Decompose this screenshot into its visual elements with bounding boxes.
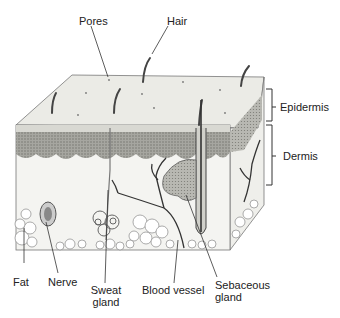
- label-blood-vessel: Blood vessel: [142, 284, 204, 296]
- layer-brackets: [266, 89, 276, 185]
- label-sebaceous-gland-line2: gland: [215, 291, 270, 303]
- label-fat: Fat: [13, 276, 29, 288]
- label-pores: Pores: [79, 15, 108, 27]
- label-epidermis: Epidermis: [280, 101, 329, 113]
- label-sebaceous-gland: Sebaceous gland: [215, 279, 270, 303]
- skin-diagram: Pores Hair Epidermis Dermis Fat Nerve Sw…: [0, 0, 340, 318]
- label-hair: Hair: [167, 15, 187, 27]
- label-sweat-gland-line1: Sweat: [89, 284, 123, 296]
- label-sweat-gland-line2: gland: [89, 296, 123, 308]
- label-nerve: Nerve: [48, 276, 77, 288]
- label-sweat-gland: Sweat gland: [89, 284, 123, 308]
- label-dermis: Dermis: [283, 150, 318, 162]
- label-sebaceous-gland-line1: Sebaceous: [215, 279, 270, 291]
